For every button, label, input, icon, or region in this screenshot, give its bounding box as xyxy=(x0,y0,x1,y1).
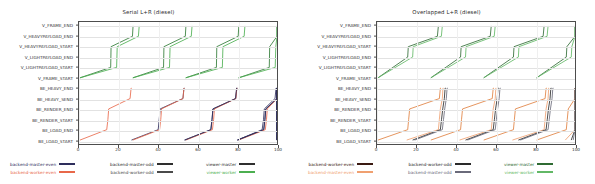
gridline xyxy=(79,47,277,48)
y-axis-tick-mark xyxy=(76,98,79,99)
legend-color-swatch xyxy=(537,163,553,164)
gridline xyxy=(377,131,575,132)
legend-color-swatch xyxy=(59,171,75,172)
trace-line xyxy=(378,26,438,78)
figure-canvas: Serial L+R (diesel) BE_LOAD_STARTBE_LOAD… xyxy=(0,0,595,184)
trace-group-right xyxy=(377,22,575,144)
x-axis-tick-mark xyxy=(158,145,159,148)
x-axis-tick-mark xyxy=(238,145,239,148)
legend-label: backend-master-even xyxy=(308,170,354,175)
legend-label: viewer-worker xyxy=(206,170,236,175)
gridline xyxy=(377,68,575,69)
legend-color-swatch xyxy=(239,163,255,164)
legend-item: backend-master-odd xyxy=(110,160,173,168)
legend-label: backend-worker-even xyxy=(10,170,56,175)
legend-column: backend-worker-evenbackend-master-even xyxy=(308,160,373,176)
legend-item: backend-master-odd xyxy=(408,168,471,176)
legend-item: backend-worker-odd xyxy=(110,168,173,176)
y-axis-tick-label: BE_RENDER_START xyxy=(330,117,371,122)
y-axis-tick-label: BE_HEAVY_END xyxy=(40,86,73,91)
x-axis-tick-mark xyxy=(78,145,79,148)
x-axis-tick-label: 0 xyxy=(77,147,80,152)
x-axis-tick-label: 80 xyxy=(235,147,240,152)
vertical-gridline xyxy=(537,22,538,144)
x-axis-tick-mark xyxy=(376,145,377,148)
x-axis-tick-label: 100 xyxy=(274,147,282,152)
gridline xyxy=(377,142,575,143)
gridline xyxy=(377,26,575,27)
x-axis-tick-mark xyxy=(198,145,199,148)
gridline xyxy=(79,58,277,59)
gridline xyxy=(79,131,277,132)
y-axis-tick-label: BE_LOAD_START xyxy=(38,139,73,144)
trace-line xyxy=(537,26,575,78)
x-axis-tick-mark xyxy=(576,145,577,148)
legend-label: backend-master-odd xyxy=(110,162,154,167)
y-axis-tick-mark xyxy=(374,67,377,68)
gridline xyxy=(79,68,277,69)
vertical-gridline xyxy=(79,22,80,144)
legend-color-swatch xyxy=(357,163,373,164)
y-axis-tick-mark xyxy=(76,25,79,26)
x-axis-tick-label: 100 xyxy=(572,147,580,152)
y-axis-tick-mark xyxy=(374,35,377,36)
y-axis-tick-mark xyxy=(374,56,377,57)
y-axis-tick-mark xyxy=(76,109,79,110)
legend-item: backend-worker-even xyxy=(10,168,75,176)
y-axis-tick-label: BE_HEAVY_SEND xyxy=(335,96,371,101)
vertical-gridline xyxy=(159,22,160,144)
legend-color-swatch xyxy=(455,163,471,164)
legend-label: backend-master-even xyxy=(10,162,56,167)
gridline xyxy=(377,89,575,90)
y-axis-tick-label: V_FRAME_START xyxy=(336,75,371,80)
y-axis-tick-label: BE_HEAVY_SEND xyxy=(37,96,73,101)
gridline xyxy=(377,110,575,111)
trace-line xyxy=(186,26,245,78)
legend-item: viewer-worker xyxy=(504,168,553,176)
legend-label: backend-worker-odd xyxy=(110,170,153,175)
x-axis-tick-mark xyxy=(278,145,279,148)
y-axis-tick-mark xyxy=(76,35,79,36)
chart-title-left: Serial L+R (diesel) xyxy=(0,9,297,15)
legend-color-swatch xyxy=(59,163,75,164)
y-axis-tick-label: BE_RENDER_END xyxy=(334,107,371,112)
x-axis-tick-label: 40 xyxy=(155,147,160,152)
legend-label: viewer-master xyxy=(206,162,236,167)
gridline xyxy=(79,100,277,101)
y-axis-tick-mark xyxy=(76,130,79,131)
gridline xyxy=(79,110,277,111)
legend-item: backend-master-even xyxy=(308,168,373,176)
gridline xyxy=(377,37,575,38)
y-axis-tick-label: V_HEAVYPAYLOAD_START xyxy=(317,44,371,49)
x-axis-tick-label: 60 xyxy=(493,147,498,152)
y-axis-tick-mark xyxy=(76,77,79,78)
gridline xyxy=(79,79,277,80)
chart-panel-overlapped: Overlapped L+R (diesel) BE_LOAD_STARTBE_… xyxy=(298,0,595,184)
y-axis-tick-label: V_HEAVYPAYLOAD_END xyxy=(23,33,73,38)
y-axis-tick-label: BE_LOAD_END xyxy=(42,128,73,133)
y-axis-labels-right: BE_LOAD_STARTBE_LOAD_ENDBE_RENDER_STARTB… xyxy=(298,21,374,145)
gridline xyxy=(377,100,575,101)
trace-line xyxy=(537,26,575,78)
vertical-gridline xyxy=(457,22,458,144)
x-axis-tick-label: 20 xyxy=(413,147,418,152)
legend-item: backend-worker-even xyxy=(308,160,373,168)
legend-color-swatch xyxy=(157,171,173,172)
x-axis-tick-mark xyxy=(496,145,497,148)
x-axis-tick-label: 20 xyxy=(115,147,120,152)
y-axis-tick-mark xyxy=(374,130,377,131)
vertical-gridline xyxy=(199,22,200,144)
gridline xyxy=(377,79,575,80)
legend-column: backend-master-oddbackend-worker-odd xyxy=(110,160,173,176)
vertical-gridline xyxy=(497,22,498,144)
x-axis-tick-label: 80 xyxy=(533,147,538,152)
y-axis-tick-mark xyxy=(76,141,79,142)
legend-column: viewer-masterviewer-worker xyxy=(206,160,255,176)
trace-line xyxy=(378,26,442,78)
x-axis-labels-left: 020406080100 xyxy=(78,147,278,157)
trace-group-left xyxy=(79,22,277,144)
chart-title-right: Overlapped L+R (diesel) xyxy=(298,9,595,15)
legend-right: backend-worker-evenbackend-master-evenba… xyxy=(308,160,588,180)
y-axis-tick-label: BE_LOAD_END xyxy=(340,128,371,133)
y-axis-tick-mark xyxy=(76,56,79,57)
